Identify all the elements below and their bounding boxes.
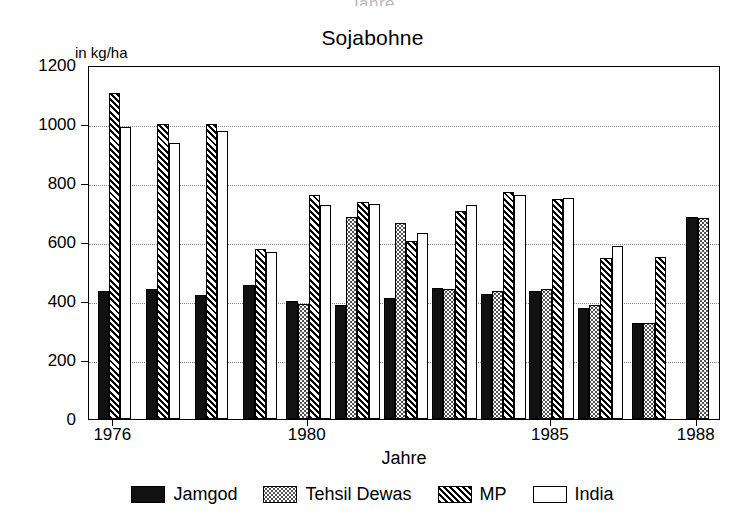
bar bbox=[514, 195, 525, 419]
bar bbox=[600, 258, 611, 419]
legend-label: Tehsil Dewas bbox=[305, 484, 411, 505]
chart-figure: Jahre Sojabohne in kg/ha 020040060080010… bbox=[0, 0, 745, 522]
y-axis-tick bbox=[81, 243, 88, 244]
bar bbox=[503, 192, 514, 419]
bar bbox=[481, 294, 492, 419]
clipped-axis-title-above: Jahre bbox=[0, 0, 745, 6]
bar bbox=[643, 323, 654, 419]
bar bbox=[195, 295, 206, 419]
x-axis-tick-label: 1985 bbox=[531, 425, 569, 445]
bar bbox=[369, 204, 380, 419]
bar bbox=[492, 291, 503, 419]
y-axis-tick-label: 800 bbox=[11, 174, 81, 194]
x-axis-tick-label: 1980 bbox=[288, 425, 326, 445]
bar bbox=[432, 288, 443, 419]
legend-swatch bbox=[533, 486, 567, 503]
bar bbox=[552, 199, 563, 419]
bar bbox=[157, 124, 168, 419]
bar bbox=[406, 241, 417, 419]
bar bbox=[443, 289, 454, 419]
legend-item: Tehsil Dewas bbox=[263, 484, 411, 505]
bar bbox=[309, 195, 320, 419]
y-axis-tick bbox=[81, 125, 88, 126]
y-axis-tick-label: 1000 bbox=[11, 115, 81, 135]
y-axis-tick-label: 0 bbox=[11, 410, 81, 430]
bar bbox=[466, 205, 477, 419]
gridline bbox=[89, 126, 719, 127]
y-axis-tick-label: 200 bbox=[11, 351, 81, 371]
bar bbox=[286, 301, 297, 419]
bar bbox=[698, 218, 709, 419]
plot-area bbox=[88, 66, 720, 420]
bar bbox=[169, 143, 180, 419]
y-axis-tick bbox=[81, 184, 88, 185]
bar bbox=[206, 124, 217, 419]
bar bbox=[455, 211, 466, 419]
legend-label: MP bbox=[480, 484, 507, 505]
bar bbox=[298, 304, 309, 419]
y-axis-tick bbox=[81, 361, 88, 362]
bar bbox=[217, 131, 228, 419]
bar bbox=[357, 202, 368, 419]
bar bbox=[146, 289, 157, 419]
bar bbox=[320, 205, 331, 419]
bar bbox=[589, 305, 600, 419]
bar bbox=[417, 233, 428, 419]
y-axis-tick-label: 400 bbox=[11, 292, 81, 312]
x-axis-title: Jahre bbox=[88, 448, 720, 469]
legend-item: MP bbox=[438, 484, 507, 505]
bar bbox=[686, 217, 697, 419]
legend-item: Jamgod bbox=[131, 484, 237, 505]
y-axis-unit-label: in kg/ha bbox=[75, 44, 128, 61]
x-axis-tick-label: 1988 bbox=[677, 425, 715, 445]
y-axis-tick bbox=[81, 302, 88, 303]
bar bbox=[632, 323, 643, 419]
legend-label: India bbox=[575, 484, 614, 505]
bar bbox=[612, 246, 623, 419]
x-axis-tick-label: 1976 bbox=[93, 425, 131, 445]
bar bbox=[243, 285, 254, 419]
bar bbox=[266, 252, 277, 419]
bar bbox=[255, 249, 266, 419]
y-axis-tick-label: 1200 bbox=[11, 56, 81, 76]
legend-label: Jamgod bbox=[173, 484, 237, 505]
bar bbox=[109, 93, 120, 419]
legend-swatch bbox=[131, 486, 165, 503]
legend-swatch bbox=[263, 486, 297, 503]
bar bbox=[529, 291, 540, 419]
bar bbox=[578, 308, 589, 419]
legend-swatch bbox=[438, 486, 472, 503]
gridline bbox=[89, 185, 719, 186]
bar bbox=[395, 223, 406, 419]
bar bbox=[541, 289, 552, 419]
bar bbox=[563, 198, 574, 419]
y-axis-tick-label: 600 bbox=[11, 233, 81, 253]
legend-item: India bbox=[533, 484, 614, 505]
bar bbox=[335, 305, 346, 419]
bar bbox=[120, 127, 131, 419]
bar bbox=[655, 257, 666, 419]
bar bbox=[98, 291, 109, 419]
bar bbox=[384, 298, 395, 419]
bar bbox=[346, 217, 357, 419]
chart-legend: JamgodTehsil DewasMPIndia bbox=[0, 484, 745, 505]
